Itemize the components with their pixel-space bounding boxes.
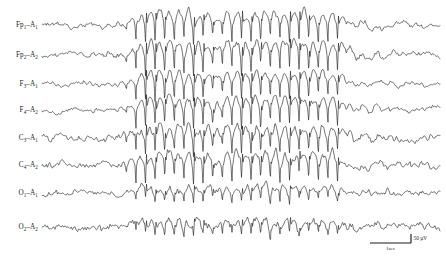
calibration-amplitude-label: 50 µV [414,235,428,241]
eeg-chart: Fp1–A1Fp2–A2F3–A1F4–A2C3–A1C4–A2O1–A1O2–… [0,0,446,268]
channel-label-fp2-a2: Fp2–A2 [16,51,38,60]
channel-label-fp1-a1: Fp1–A1 [16,21,38,30]
calibration-time-label: 1sec [386,246,396,251]
eeg-figure: Fp1–A1Fp2–A2F3–A1F4–A2C3–A1C4–A2O1–A1O2–… [0,0,446,268]
